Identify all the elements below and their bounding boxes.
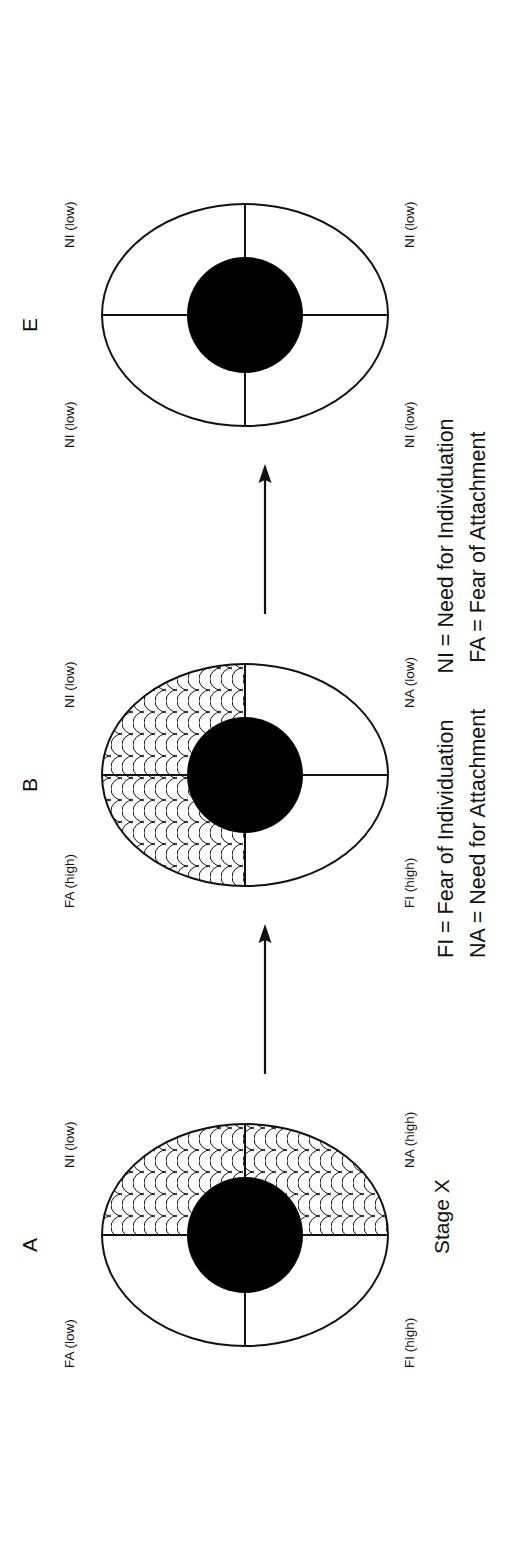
legend-line-2: NA = Need for Attachment FA = Fear of At… — [462, 58, 494, 958]
panel-a-label-top-right: FI (high) — [402, 1318, 417, 1368]
panel-a-svg — [100, 1122, 390, 1348]
panel-e-core — [187, 257, 303, 373]
legend-fa: FA = Fear of Attachment — [466, 432, 490, 663]
panel-e-label-bottom-right: NI (low) — [402, 202, 417, 249]
panel-b-label-top-left: FA (high) — [62, 854, 77, 908]
panel-a-label-bottom-right: NA (high) — [402, 1112, 417, 1168]
legend: FI = Fear of Individuation NI = Need for… — [430, 58, 495, 958]
legend-line-1: FI = Fear of Individuation NI = Need for… — [430, 58, 462, 958]
legend-ni: NI = Need for Individuation — [434, 418, 458, 673]
panel-a-circle — [100, 1122, 390, 1348]
panel-e-label-top-right: NI (low) — [402, 402, 417, 449]
panel-e-svg — [100, 202, 390, 428]
panel-b-label-top-right: FI (high) — [402, 858, 417, 908]
panel-e-label-bottom-left: NI (low) — [62, 202, 77, 249]
panel-b-svg — [100, 662, 390, 888]
panel-e-label-top-left: NI (low) — [62, 402, 77, 449]
arrow-a-to-b — [255, 924, 275, 1074]
panel-b-label-bottom-left: NI (low) — [62, 662, 77, 709]
panel-a: A — [0, 1070, 528, 1400]
panel-a-core — [187, 1177, 303, 1293]
panel-a-label-bottom-left: NI (low) — [62, 1122, 77, 1169]
panel-e-letter: E — [18, 317, 42, 332]
arrow-b-to-e — [255, 464, 275, 614]
figure-root: A — [0, 0, 528, 1550]
panel-b-label-bottom-right: NA (low) — [402, 657, 417, 708]
panel-b-letter: B — [18, 777, 42, 792]
stage-x-label: Stage X — [430, 1179, 454, 1254]
legend-na: NA = Need for Attachment — [466, 709, 490, 958]
panel-b-circle — [100, 662, 390, 888]
panel-a-label-top-left: FA (low) — [62, 1319, 77, 1368]
panel-e-circle — [100, 202, 390, 428]
panel-a-letter: A — [18, 1237, 42, 1252]
legend-fi: FI = Fear of Individuation — [434, 720, 458, 958]
panel-b-core — [187, 717, 303, 833]
